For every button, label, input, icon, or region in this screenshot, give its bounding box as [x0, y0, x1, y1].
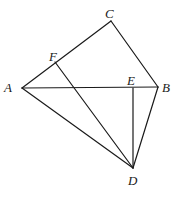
segment-ad: [22, 88, 133, 168]
point-label-a: A: [4, 81, 12, 94]
point-label-f: F: [49, 50, 57, 63]
point-label-d: D: [128, 174, 137, 187]
segment-fd: [55, 62, 133, 168]
geometry-diagram: A B C D E F: [0, 0, 178, 197]
point-label-c: C: [105, 7, 114, 20]
point-label-e: E: [127, 74, 135, 87]
diagram-lines: [0, 0, 178, 197]
segment-ab: [22, 87, 158, 88]
point-label-b: B: [162, 81, 170, 94]
segment-bd: [133, 87, 158, 168]
